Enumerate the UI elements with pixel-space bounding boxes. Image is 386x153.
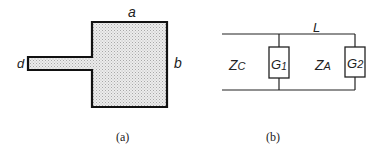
patch-outline — [28, 22, 167, 107]
equivalent-circuit-diagram: L ZC G1 ZA G2 (b) — [222, 20, 365, 144]
label-b: b — [174, 55, 182, 71]
caption-a: (a) — [116, 130, 129, 144]
label-L: L — [313, 20, 320, 35]
label-za: ZA — [314, 57, 331, 73]
label-g2: G2 — [347, 56, 363, 71]
caption-b: (b) — [266, 130, 280, 144]
patch-antenna-diagram: a b d (a) — [17, 4, 182, 144]
label-a: a — [128, 4, 136, 20]
label-d: d — [17, 56, 25, 71]
figure-canvas: a b d (a) L ZC G1 ZA G2 (b) — [0, 0, 386, 153]
label-zc: ZC — [228, 57, 246, 73]
